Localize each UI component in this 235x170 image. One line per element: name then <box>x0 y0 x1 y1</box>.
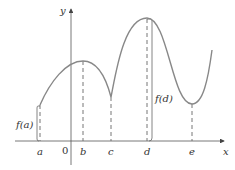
fd-bracket <box>147 19 152 141</box>
drop-lines <box>40 19 192 141</box>
point-c-label: c <box>108 146 114 157</box>
fa-label: f(a) <box>15 119 34 130</box>
point-e-label: e <box>189 146 195 157</box>
fd-label: f(d) <box>154 93 173 104</box>
point-b-label: b <box>80 146 86 157</box>
y-axis-label: y <box>59 5 66 16</box>
x-axis-label: x <box>223 146 229 157</box>
function-graph: y x 0 a b c d e f(a) f(d) <box>0 0 235 170</box>
point-d-label: d <box>144 146 150 157</box>
point-a-label: a <box>37 146 43 157</box>
origin-label: 0 <box>62 145 68 156</box>
function-curve <box>40 18 212 105</box>
